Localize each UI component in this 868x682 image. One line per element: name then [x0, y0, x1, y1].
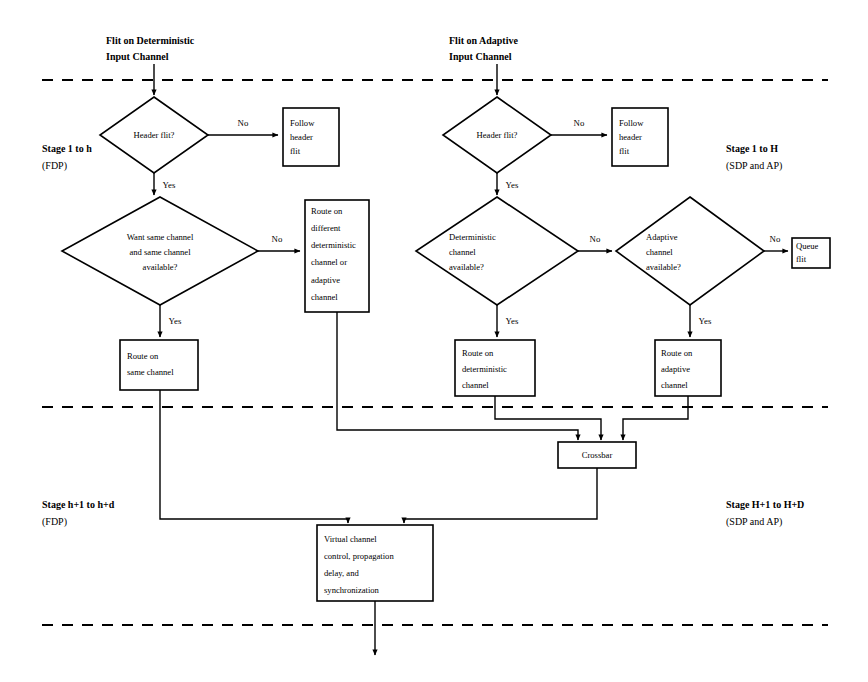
- decision-deterministic-available-line2: channel: [449, 247, 476, 257]
- process-route-different-line6: channel: [311, 292, 338, 302]
- flowchart-canvas: Flit on Deterministic Input Channel Flit…: [0, 0, 868, 682]
- flowchart-diagram: Flit on Deterministic Input Channel Flit…: [0, 0, 868, 682]
- edge-label-adapt-no: No: [770, 234, 781, 244]
- edge-label-want-yes: Yes: [169, 316, 182, 326]
- stage-right-top-line2: (SDP and AP): [726, 160, 782, 172]
- process-route-different-line3: deterministic: [311, 240, 356, 250]
- process-follow-header-left-line1: Follow: [290, 118, 315, 128]
- decision-adaptive-available-line1: Adaptive: [646, 232, 678, 242]
- process-route-adaptive-line1: Route on: [661, 348, 693, 358]
- process-route-deterministic-line1: Route on: [462, 348, 494, 358]
- edge-label-adapt-yes: Yes: [699, 316, 712, 326]
- decision-deterministic-available-line3: available?: [449, 262, 484, 272]
- process-virtual-channel-line2: control, propagation: [324, 551, 394, 561]
- process-queue-flit-line2: flit: [796, 254, 807, 264]
- process-virtual-channel-line4: synchronization: [324, 585, 380, 595]
- edge-label-hf-left-yes: Yes: [163, 180, 176, 190]
- edge-label-det-yes: Yes: [506, 316, 519, 326]
- process-route-same-channel[interactable]: [120, 340, 198, 390]
- edge-label-hf-right-no: No: [574, 118, 585, 128]
- process-crossbar-label: Crossbar: [582, 450, 613, 460]
- entry-adaptive-line1: Flit on Adaptive: [449, 35, 518, 46]
- decision-header-flit-left-label: Header flit?: [134, 130, 175, 140]
- decision-header-flit-right-label: Header flit?: [477, 130, 518, 140]
- process-route-deterministic-line3: channel: [462, 380, 489, 390]
- decision-adaptive-available-line2: channel: [646, 247, 673, 257]
- process-route-same-channel-line1: Route on: [127, 351, 159, 361]
- process-follow-header-right-line2: header: [619, 132, 642, 142]
- stage-left-top-line2: (FDP): [42, 160, 67, 172]
- edge-label-det-no: No: [590, 234, 601, 244]
- edge-label-want-no: No: [272, 234, 283, 244]
- process-route-different-line5: adaptive: [311, 275, 340, 285]
- decision-want-same-channel-line3: available?: [143, 262, 178, 272]
- stage-left-top-line1: Stage 1 to h: [42, 143, 92, 154]
- stage-right-top-line1: Stage 1 to H: [726, 143, 778, 154]
- stage-right-bottom-line2: (SDP and AP): [726, 516, 782, 528]
- edge-label-hf-left-no: No: [238, 118, 249, 128]
- process-route-adaptive-line3: channel: [661, 380, 688, 390]
- stage-left-bottom-line1: Stage h+1 to h+d: [42, 499, 115, 510]
- process-queue-flit-line1: Queue: [796, 241, 819, 251]
- stage-right-bottom-line1: Stage H+1 to H+D: [726, 499, 804, 510]
- edge-label-hf-right-yes: Yes: [506, 180, 519, 190]
- entry-deterministic-line2: Input Channel: [106, 51, 169, 62]
- process-route-different-line2: different: [311, 223, 341, 233]
- process-route-adaptive-line2: adaptive: [661, 364, 690, 374]
- process-follow-header-left-line3: flit: [290, 146, 301, 156]
- stage-left-bottom-line2: (FDP): [42, 516, 67, 528]
- process-route-deterministic-line2: deterministic: [462, 364, 507, 374]
- process-route-different-line1: Route on: [311, 206, 343, 216]
- entry-adaptive-line2: Input Channel: [449, 51, 512, 62]
- entry-deterministic-line1: Flit on Deterministic: [106, 35, 195, 46]
- process-follow-header-right-line3: flit: [619, 146, 630, 156]
- process-follow-header-right-line1: Follow: [619, 118, 644, 128]
- process-follow-header-left-line2: header: [290, 132, 313, 142]
- decision-deterministic-available-line1: Deterministic: [449, 232, 496, 242]
- process-virtual-channel-line1: Virtual channel: [324, 534, 377, 544]
- decision-want-same-channel-line1: Want same channel: [127, 232, 194, 242]
- process-route-different-line4: channel or: [311, 257, 347, 267]
- decision-adaptive-available-line3: available?: [646, 262, 681, 272]
- decision-want-same-channel-line2: and same channel: [129, 247, 191, 257]
- process-route-same-channel-line2: same channel: [127, 367, 174, 377]
- process-virtual-channel-line3: delay, and: [324, 568, 359, 578]
